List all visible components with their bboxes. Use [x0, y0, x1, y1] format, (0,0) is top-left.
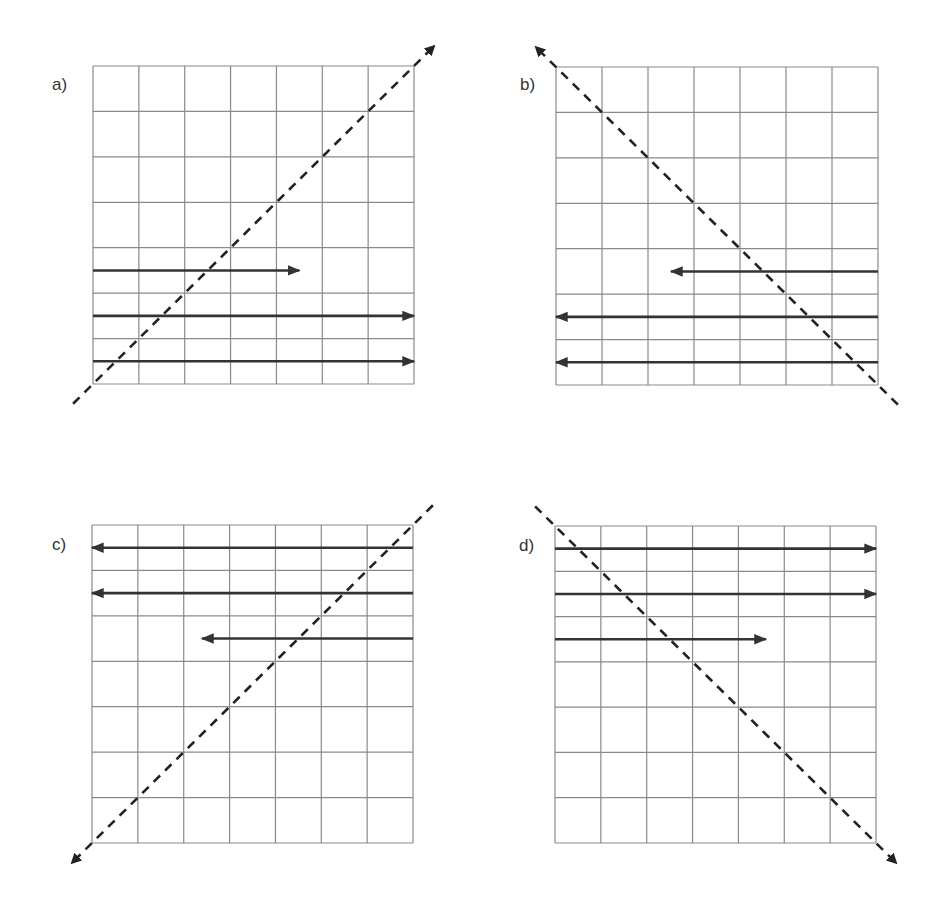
- panel-label-b: b): [520, 75, 535, 94]
- diagram-figure: a) b) c) d): [0, 0, 949, 902]
- panel-label-a: a): [52, 75, 67, 94]
- panel-label-c: c): [52, 535, 66, 554]
- panel-label-d: d): [519, 536, 534, 555]
- panel-d: d): [519, 506, 896, 862]
- diagonal-dashed-arrow: [72, 505, 433, 862]
- panel-b: b): [520, 47, 898, 404]
- panel-c: c): [52, 505, 433, 862]
- panel-a: a): [52, 46, 434, 403]
- diagonal-dashed-arrow: [73, 46, 434, 403]
- diagonal-dashed-arrow: [535, 506, 896, 862]
- diagonal-dashed-arrow: [536, 47, 898, 404]
